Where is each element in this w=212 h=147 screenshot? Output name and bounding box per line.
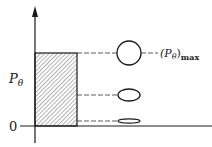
- y-axis-label: Pθ: [8, 71, 24, 88]
- zero-label: 0: [9, 119, 17, 134]
- ellipse-mid: [118, 89, 140, 101]
- circle-max: [117, 41, 141, 65]
- max-label: (Pθ)max: [160, 47, 199, 62]
- diagram-canvas: Pθ 0 (Pθ)max: [0, 0, 212, 147]
- y-axis-arrow-icon: [32, 6, 38, 17]
- ellipse-low: [118, 119, 140, 123]
- hatched-region: [35, 53, 77, 126]
